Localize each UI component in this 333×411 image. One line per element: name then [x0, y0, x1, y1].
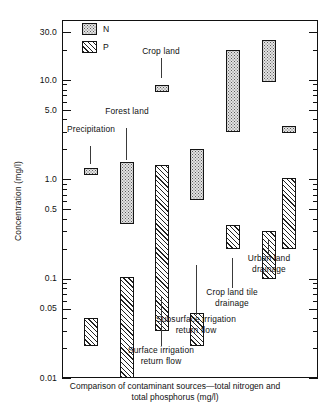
tick-minor-l-9: [62, 84, 67, 85]
y-tick-label-1.0: 1.0: [45, 175, 57, 184]
legend-swatch-n: [82, 23, 97, 35]
tick-minor-r-0.09: [313, 283, 318, 284]
bar-n-urban-land-drainage: [282, 126, 296, 133]
tick-minor-r-0.03: [313, 331, 318, 332]
bar-p-urban-land-drainage: [282, 178, 296, 248]
tick-major-l-0.01: [62, 378, 71, 379]
tick-minor-l-2: [62, 149, 67, 150]
annotation-crop-land-tile: Crop land tile drainage: [180, 287, 284, 308]
annotation-urban-land-line2: drainage: [228, 264, 310, 275]
annotation-surface-irrigation-line1: Surface irrigation: [105, 345, 217, 356]
tick-minor-r-0.06: [313, 301, 318, 302]
y-tick-label-0.5: 0.5: [45, 205, 57, 214]
tick-major-l-0.5: [62, 209, 71, 210]
tick-minor-r-0.04: [313, 318, 318, 319]
tick-minor-l-0.06: [62, 301, 67, 302]
tick-minor-r-2: [313, 149, 318, 150]
leader-crop-land: [161, 58, 162, 78]
bar-n-surface-irrigation-return-flow: [190, 149, 204, 200]
tick-minor-l-7: [62, 95, 67, 96]
leader-urban-land: [268, 240, 269, 254]
bar-p-subsurface-irrigation-return-flow: [226, 225, 240, 249]
annotation-urban-land-line1: Urban land: [228, 253, 310, 264]
tick-minor-l-0.6: [62, 201, 67, 202]
annotation-urban-land: Urban land drainage: [228, 253, 310, 274]
tick-minor-r-20: [313, 50, 318, 51]
annotation-subsurface-irrigation-line2: return flow: [134, 325, 258, 336]
y-tick-label-5.0: 5.0: [45, 106, 57, 115]
tick-minor-r-0.08: [313, 288, 318, 289]
tick-major-l-5: [62, 110, 71, 111]
tick-major-l-30: [62, 32, 71, 33]
tick-minor-l-0.09: [62, 283, 67, 284]
tick-minor-l-0.8: [62, 189, 67, 190]
tick-major-r-0.5: [309, 209, 318, 210]
tick-major-r-10: [309, 80, 318, 81]
tick-minor-r-0.6: [313, 201, 318, 202]
y-tick-label-0.1: 0.1: [45, 274, 57, 283]
tick-minor-l-6: [62, 102, 67, 103]
tick-minor-l-0.9: [62, 184, 67, 185]
tick-major-l-1: [62, 179, 71, 180]
figure-caption: Comparison of contaminant sources—total …: [40, 381, 310, 404]
tick-minor-r-6: [313, 102, 318, 103]
tick-minor-r-0.07: [313, 294, 318, 295]
tick-major-l-0.1: [62, 279, 71, 280]
figure-contaminant-sources: Concentration (mg/l) 30.010.05.01.00.50.…: [0, 0, 333, 411]
tick-minor-r-4: [313, 119, 318, 120]
tick-minor-l-0.07: [62, 294, 67, 295]
tick-minor-l-0.04: [62, 318, 67, 319]
tick-minor-l-8: [62, 90, 67, 91]
annotation-precipitation-line1: Precipitation: [58, 124, 124, 135]
bar-n-crop-land: [155, 85, 169, 92]
tick-major-r-30: [309, 32, 318, 33]
tick-minor-r-9: [313, 84, 318, 85]
annotation-surface-irrigation: Surface irrigation return flow: [105, 345, 217, 366]
bar-p-precipitation: [84, 318, 98, 346]
tick-major-l-0.05: [62, 309, 71, 310]
annotation-crop-land-tile-line2: drainage: [180, 298, 284, 309]
annotation-precipitation: Precipitation: [58, 124, 124, 135]
tick-major-r-0.1: [309, 279, 318, 280]
tick-minor-r-0.8: [313, 189, 318, 190]
figure-caption-line1: Comparison of contaminant sources—total …: [40, 381, 310, 392]
annotation-forest-land: Forest land: [94, 106, 160, 117]
tick-minor-l-0.08: [62, 288, 67, 289]
tick-minor-r-3: [313, 132, 318, 133]
legend-swatch-p: [82, 41, 97, 53]
y-tick-label-10.0: 10.0: [40, 76, 57, 85]
tick-minor-r-0.7: [313, 195, 318, 196]
leader-precipitation: [90, 146, 91, 164]
tick-minor-r-0.4: [313, 219, 318, 220]
bar-n-forest-land: [120, 162, 134, 225]
annotation-subsurface-irrigation: Subsurface irrigation return flow: [134, 314, 258, 335]
bar-n-crop-land-tile-drainage: [262, 40, 276, 82]
y-axis-title: Concentration (mg/l): [13, 131, 23, 271]
tick-major-r-0.01: [309, 378, 318, 379]
annotation-forest-land-line1: Forest land: [94, 106, 160, 117]
figure-caption-line2: total phosphorus (mg/l): [40, 392, 310, 403]
bar-n-precipitation: [84, 168, 98, 175]
annotation-subsurface-irrigation-line1: Subsurface irrigation: [134, 314, 258, 325]
leader-forest-land: [126, 128, 127, 160]
tick-minor-r-0.02: [313, 348, 318, 349]
y-tick-label-30.0: 30.0: [40, 28, 57, 37]
legend-label-n: N: [103, 23, 109, 35]
annotation-surface-irrigation-line2: return flow: [105, 356, 217, 367]
tick-major-r-1: [309, 179, 318, 180]
tick-minor-l-0.03: [62, 331, 67, 332]
bar-n-subsurface-irrigation-return-flow: [226, 50, 240, 132]
annotation-crop-land: Crop land: [128, 46, 194, 57]
tick-major-l-10: [62, 80, 71, 81]
tick-minor-r-0.2: [313, 249, 318, 250]
tick-minor-r-7: [313, 95, 318, 96]
annotation-crop-land-line1: Crop land: [128, 46, 194, 57]
tick-minor-r-0.9: [313, 184, 318, 185]
legend-label-p: P: [103, 41, 109, 53]
y-tick-label-0.05: 0.05: [40, 304, 57, 313]
tick-minor-l-0.02: [62, 348, 67, 349]
tick-minor-l-0.3: [62, 231, 67, 232]
tick-major-r-0.05: [309, 309, 318, 310]
tick-minor-r-0.3: [313, 231, 318, 232]
tick-minor-l-0.7: [62, 195, 67, 196]
